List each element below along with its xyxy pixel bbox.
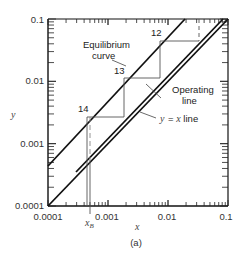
y-tick-0.1: 0.1 — [31, 14, 44, 25]
equilibrium-label-2: curve — [92, 50, 115, 61]
figure-caption: (a) — [130, 237, 142, 248]
operating-label-1: Operating — [172, 84, 214, 95]
yx-line-label: y = x line — [159, 113, 198, 124]
mccabe-thiele-log-chart: Equilibrium curve Operating line y = x l… — [0, 0, 242, 266]
xb-label: xB — [84, 217, 94, 230]
y-axis-label: y — [10, 109, 16, 120]
stage-label-12: 12 — [151, 27, 162, 38]
x-tick-0.001: 0.001 — [95, 211, 119, 222]
stage-label-14: 14 — [78, 103, 89, 114]
operating-label-2: line — [182, 95, 197, 106]
y-tick-0.01: 0.01 — [26, 75, 45, 86]
y-tick-0.001: 0.001 — [20, 138, 44, 149]
x-tick-0.0001: 0.0001 — [33, 211, 62, 222]
yx-y: y — [159, 113, 165, 124]
y-equals-x-line — [48, 19, 228, 206]
equilibrium-label-1: Equilibrium — [83, 39, 130, 50]
stage-label-13: 13 — [114, 65, 125, 76]
x-tick-0.1: 0.1 — [219, 211, 232, 222]
y-tick-0.0001: 0.0001 — [15, 200, 44, 211]
x-axis-label: x — [134, 221, 140, 232]
x-tick-0.01: 0.01 — [158, 211, 177, 222]
